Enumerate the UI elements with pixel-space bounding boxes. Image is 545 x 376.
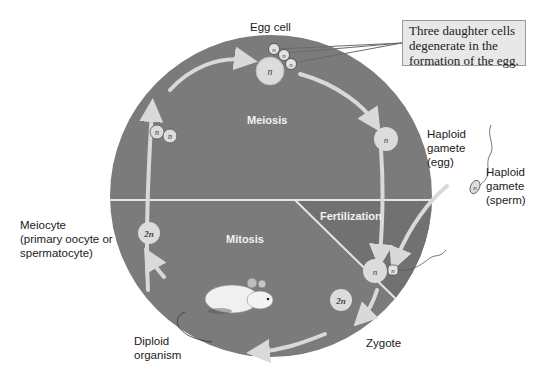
svg-text:n: n (272, 46, 276, 54)
svg-text:n: n (391, 267, 395, 275)
label-meiocyte: Meiocyte (primary oocyte or spermatocyte… (20, 218, 113, 260)
svg-text:n: n (282, 52, 286, 60)
label-egg-cell: Egg cell (250, 20, 291, 34)
svg-text:n: n (155, 128, 159, 137)
svg-text:n: n (373, 267, 378, 277)
label-diploid-organism: Diploid organism (134, 334, 181, 362)
svg-text:2n: 2n (335, 296, 346, 306)
label-zygote: Zygote (366, 336, 401, 350)
label-haploid-egg: Haploid gamete (egg) (427, 127, 466, 169)
meiocyte-cell: 2n (138, 222, 160, 244)
svg-text:n: n (473, 184, 477, 192)
label-haploid-sperm: Haploid gamete (sperm) (486, 165, 526, 207)
svg-text:n: n (168, 132, 172, 141)
haploid-egg-cell: n (374, 127, 398, 151)
phase-label-meiosis: Meiosis (247, 114, 287, 126)
phase-label-fertilization: Fertilization (320, 210, 382, 222)
svg-text:2n: 2n (143, 229, 154, 239)
zygote-cell: 2n (330, 289, 352, 311)
callout-box-degenerating-cells: Three daughter cells degenerate in the f… (402, 20, 526, 66)
phase-label-mitosis: Mitosis (226, 233, 264, 245)
svg-text:n: n (268, 66, 273, 77)
svg-text:n: n (289, 61, 293, 69)
svg-text:n: n (384, 135, 389, 145)
